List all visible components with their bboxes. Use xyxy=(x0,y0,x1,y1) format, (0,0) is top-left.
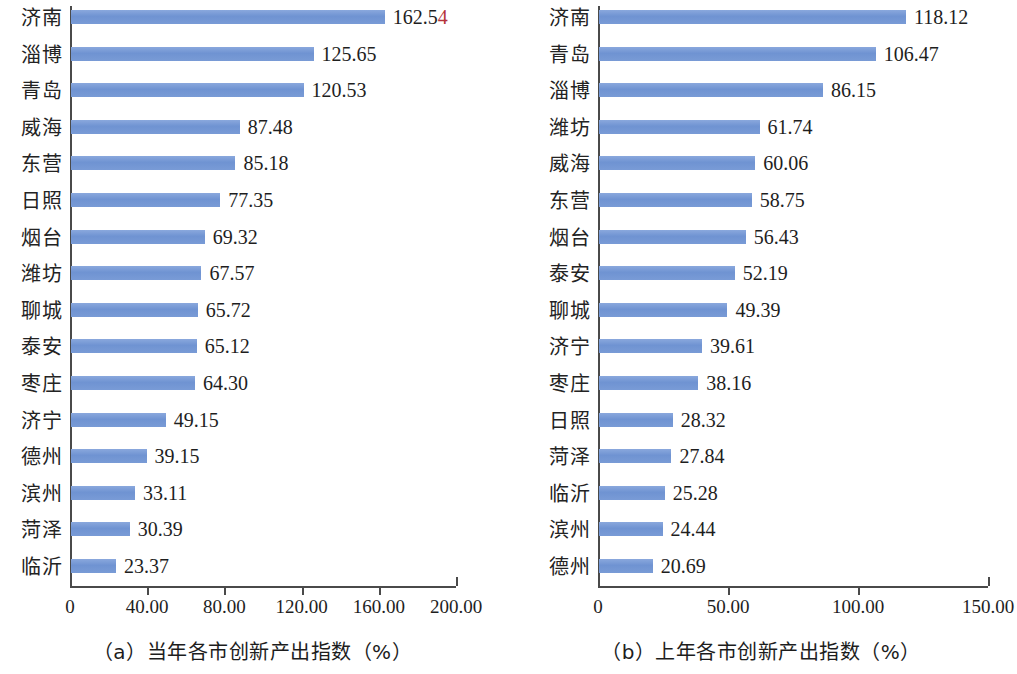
category-label: 聊城 xyxy=(505,301,591,321)
x-axis-tick-label: 160.00 xyxy=(353,596,405,618)
bar-row: 烟台56.43 xyxy=(505,228,1017,265)
bar-row: 东营58.75 xyxy=(505,191,1017,228)
figure-two-bar-charts: 040.0080.00120.00160.00200.00济南162.54淄博1… xyxy=(0,0,1017,674)
bar-row: 泰安65.12 xyxy=(0,337,505,374)
bar-value-label: 52.19 xyxy=(743,263,788,283)
bar-value-label: 118.12 xyxy=(914,7,968,27)
bar-row: 泰安52.19 xyxy=(505,264,1017,301)
bar xyxy=(71,303,198,317)
category-label: 威海 xyxy=(0,118,63,138)
bar-row: 烟台69.32 xyxy=(0,228,505,265)
category-label: 枣庄 xyxy=(0,374,63,394)
bar-row: 青岛120.53 xyxy=(0,81,505,118)
category-label: 菏泽 xyxy=(0,520,63,540)
bar-value-label: 39.15 xyxy=(155,446,200,466)
bar xyxy=(71,559,116,573)
bar-row: 枣庄38.16 xyxy=(505,374,1017,411)
category-label: 淄博 xyxy=(505,81,591,101)
bar-row: 临沂25.28 xyxy=(505,484,1017,521)
category-label: 德州 xyxy=(0,447,63,467)
bar-row: 菏泽30.39 xyxy=(0,520,505,557)
bar-row: 淄博86.15 xyxy=(505,81,1017,118)
bar-row: 济宁39.61 xyxy=(505,337,1017,374)
bar xyxy=(71,449,147,463)
x-axis-tick-label: 150.00 xyxy=(962,596,1014,618)
x-axis-tick-label: 100.00 xyxy=(832,596,884,618)
bar xyxy=(71,266,201,280)
bar xyxy=(71,339,197,353)
category-label: 泰安 xyxy=(0,337,63,357)
plot-area-b: 050.00100.00150.00济南118.12青岛106.47淄博86.1… xyxy=(505,0,1017,592)
bar-value-label: 87.48 xyxy=(248,117,293,137)
bar-row: 青岛106.47 xyxy=(505,45,1017,82)
bar-value-label: 106.47 xyxy=(884,44,939,64)
category-label: 滨州 xyxy=(0,484,63,504)
bar xyxy=(599,339,702,353)
bar-value-label: 49.39 xyxy=(735,300,780,320)
bar-value-label: 65.12 xyxy=(205,336,250,356)
bar xyxy=(71,486,135,500)
bar-row: 菏泽27.84 xyxy=(505,447,1017,484)
bar-value-label: 20.69 xyxy=(661,556,706,576)
bar-value-label: 61.74 xyxy=(768,117,813,137)
category-label: 枣庄 xyxy=(505,374,591,394)
category-label: 菏泽 xyxy=(505,447,591,467)
x-axis-tick-label: 200.00 xyxy=(430,596,482,618)
bar xyxy=(599,559,653,573)
bar-value-label: 65.72 xyxy=(206,300,251,320)
bar-value-label: 28.32 xyxy=(681,410,726,430)
bar-value-label: 23.37 xyxy=(124,556,169,576)
bar xyxy=(71,156,235,170)
category-label: 泰安 xyxy=(505,264,591,284)
bar xyxy=(71,413,166,427)
x-axis-tick-label: 50.00 xyxy=(707,596,750,618)
category-label: 济南 xyxy=(505,8,591,28)
chart-panel-a: 040.0080.00120.00160.00200.00济南162.54淄博1… xyxy=(0,0,505,674)
bar-value-label: 85.18 xyxy=(243,153,288,173)
bar xyxy=(599,193,752,207)
bar xyxy=(599,303,727,317)
x-axis-tick-label: 120.00 xyxy=(275,596,327,618)
chart-caption-b: （b）上年各市创新产出指数（%） xyxy=(505,640,1017,664)
bar xyxy=(599,413,673,427)
category-label: 烟台 xyxy=(505,228,591,248)
bar-value-label: 30.39 xyxy=(138,519,183,539)
category-label: 淄博 xyxy=(0,45,63,65)
x-axis-tick-label: 0 xyxy=(65,596,75,618)
bar xyxy=(599,47,876,61)
category-label: 临沂 xyxy=(0,557,63,577)
bar xyxy=(599,522,663,536)
bar-value-label: 69.32 xyxy=(213,227,258,247)
category-label: 日照 xyxy=(0,191,63,211)
plot-area-a: 040.0080.00120.00160.00200.00济南162.54淄博1… xyxy=(0,0,505,592)
bar xyxy=(71,522,130,536)
bar xyxy=(71,193,220,207)
bar-value-label: 125.65 xyxy=(322,44,377,64)
bar-value-label: 64.30 xyxy=(203,373,248,393)
bar-value-label: 38.16 xyxy=(706,373,751,393)
bar-row: 滨州24.44 xyxy=(505,520,1017,557)
bar-value-label: 77.35 xyxy=(228,190,273,210)
bar xyxy=(599,156,755,170)
bar-value-label: 162.54 xyxy=(393,7,448,27)
bar xyxy=(71,47,314,61)
bar xyxy=(599,266,735,280)
bar-row: 德州39.15 xyxy=(0,447,505,484)
bar-row: 济南118.12 xyxy=(505,8,1017,45)
bar xyxy=(599,449,671,463)
bar xyxy=(599,120,760,134)
x-axis-tick-label: 80.00 xyxy=(203,596,246,618)
bar xyxy=(71,83,304,97)
bar xyxy=(599,10,906,24)
category-label: 烟台 xyxy=(0,228,63,248)
category-label: 临沂 xyxy=(505,484,591,504)
bar xyxy=(599,230,746,244)
bar xyxy=(71,230,205,244)
bar-value-label: 24.44 xyxy=(671,519,716,539)
chart-panel-b: 050.00100.00150.00济南118.12青岛106.47淄博86.1… xyxy=(505,0,1017,674)
bar-row: 济宁49.15 xyxy=(0,411,505,448)
bar-value-label: 60.06 xyxy=(763,153,808,173)
category-label: 威海 xyxy=(505,154,591,174)
category-label: 青岛 xyxy=(0,81,63,101)
category-label: 济南 xyxy=(0,8,63,28)
